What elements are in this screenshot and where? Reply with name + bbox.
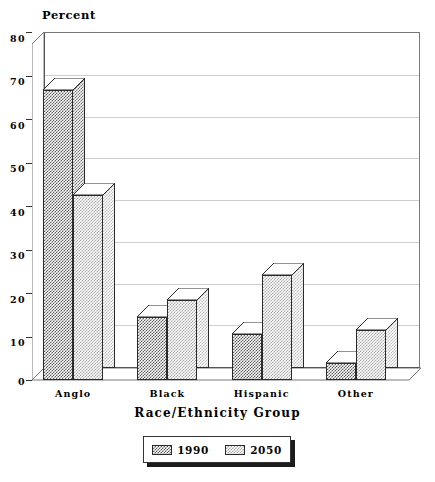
x-axis-labels: AngloBlackHispanicOther [0, 388, 435, 404]
bar-top-face [356, 318, 398, 330]
legend-label-1990: 1990 [177, 444, 209, 456]
bar-anglo-2050 [73, 183, 115, 380]
bar-chart: Percent 80 70 60 50 40 30 20 10 [0, 0, 435, 482]
bar-front-face [232, 334, 262, 380]
legend-entry-1990: 1990 [152, 444, 209, 456]
bar-front-face [356, 330, 386, 380]
legend-label-2050: 2050 [250, 444, 282, 456]
bar-front-face [43, 90, 73, 380]
bar-hispanic-2050 [262, 263, 304, 380]
legend-entry-2050: 2050 [225, 444, 282, 456]
bar-side-face [103, 183, 115, 368]
bar-front-face [262, 275, 292, 380]
bar-black-2050 [167, 288, 209, 380]
legend-swatch-2050 [225, 445, 245, 455]
x-tick-label-black: Black [150, 388, 186, 399]
bar-front-face [137, 317, 167, 380]
x-tick-label-hispanic: Hispanic [234, 388, 290, 399]
bar-other-2050 [356, 318, 398, 380]
chart-legend: 19902050 [143, 436, 291, 463]
bar-top-face [73, 183, 115, 195]
x-tick-label-other: Other [338, 388, 374, 399]
bar-top-face [262, 263, 304, 275]
bar-top-face [167, 288, 209, 300]
bar-front-face [326, 363, 356, 380]
bar-side-face [292, 263, 304, 368]
x-axis-title: Race/Ethnicity Group [0, 406, 435, 420]
bar-front-face [167, 300, 197, 380]
bar-top-face [43, 78, 85, 90]
x-tick-label-anglo: Anglo [55, 388, 91, 399]
legend-swatch-1990 [152, 445, 172, 455]
bar-front-face [73, 195, 103, 380]
